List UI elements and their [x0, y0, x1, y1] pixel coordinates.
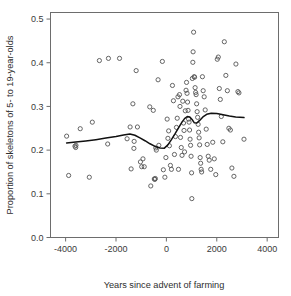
- chart-figure: 0.00.10.20.30.40.5 -4000-2000020004000 Y…: [0, 0, 291, 296]
- x-tick-label: -2000: [104, 244, 127, 254]
- y-axis-title: Proportion of skeletons of 5- to 19-year…: [5, 35, 15, 214]
- y-tick-label: 0.4: [31, 58, 44, 68]
- x-tick-label: -4000: [54, 244, 77, 254]
- y-tick-label: 0.5: [31, 14, 44, 24]
- x-tick-label: 0: [164, 244, 169, 254]
- plot-background: [0, 0, 291, 296]
- y-tick-label: 0.3: [31, 102, 44, 112]
- y-tick-label: 0.0: [31, 233, 44, 243]
- x-tick-label: 4000: [257, 244, 277, 254]
- y-tick-label: 0.2: [31, 145, 44, 155]
- scatter-plot: 0.00.10.20.30.40.5 -4000-2000020004000 Y…: [0, 0, 291, 296]
- x-tick-label: 2000: [207, 244, 227, 254]
- x-axis-title: Years since advent of farming: [104, 280, 225, 290]
- y-tick-label: 0.1: [31, 189, 44, 199]
